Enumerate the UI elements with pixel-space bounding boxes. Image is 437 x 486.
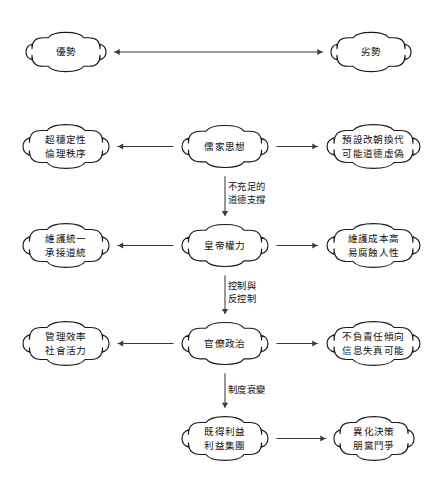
arrowhead-left: [118, 143, 123, 149]
arrowhead-left: [114, 49, 119, 55]
arrowhead-down: [222, 211, 228, 216]
alienated-decision-node-shape[interactable]: [334, 417, 414, 461]
emperor-disadvantage-node-shape[interactable]: [327, 224, 420, 268]
confucian-disadvantage-node-shape[interactable]: [327, 125, 420, 169]
edge-label-line: 不充足的: [228, 180, 266, 193]
confucian-advantage-node-shape[interactable]: [23, 125, 109, 169]
edge-bureaucracy-to-advantage: [117, 340, 173, 346]
arrowhead-right: [312, 242, 317, 248]
arrowhead-down: [222, 403, 228, 408]
edge-vested-to-alienated: [276, 435, 326, 441]
edge-confucian-to-disadvantage: [276, 143, 317, 149]
arrowhead-right: [312, 340, 317, 346]
edge-label-line: 控制與: [228, 279, 256, 292]
arrowhead-down: [222, 309, 228, 314]
arrowhead-left: [118, 242, 123, 248]
edge-emperor-to-disadvantage: [276, 242, 317, 248]
bureaucratic-politics-node-shape[interactable]: [182, 323, 268, 365]
nodes-layer: [23, 32, 420, 460]
edge-advantage-disadvantage: [114, 49, 323, 55]
disadvantage-header-node-shape[interactable]: [331, 32, 411, 71]
vested-interests-node-shape[interactable]: [182, 417, 268, 461]
edge-emperor-to-bureaucracy-label: 控制與反控制: [228, 279, 256, 305]
edge-label-line: 反控制: [228, 292, 256, 305]
edge-bureaucracy-to-disadvantage: [276, 340, 317, 346]
diagram-root: 不充足的道德支撐控制與反控制制度衰變優勢劣勢超穩定性倫理秩序儒家思想預設改朝換代…: [0, 0, 437, 486]
confucian-thought-node-shape[interactable]: [182, 126, 268, 168]
emperor-advantage-node-shape[interactable]: [23, 224, 109, 268]
edge-confucian-to-emperor-label: 不充足的道德支撐: [228, 180, 266, 206]
edge-label-line: 制度衰變: [228, 383, 266, 396]
edge-confucian-to-advantage: [117, 143, 173, 149]
arrowhead-left: [118, 340, 123, 346]
arrowhead-right: [317, 49, 322, 55]
edge-bureaucracy-to-vested-interests-label: 制度衰變: [228, 383, 266, 396]
bureaucracy-disadvantage-node-shape[interactable]: [327, 322, 420, 366]
edge-label-line: 道德支撐: [228, 193, 266, 206]
diagram-canvas: [0, 0, 437, 486]
arrowhead-right: [312, 143, 317, 149]
emperor-power-node-shape[interactable]: [182, 225, 268, 267]
advantage-header-node-shape[interactable]: [26, 32, 106, 71]
arrowhead-right: [320, 435, 325, 441]
bureaucracy-advantage-node-shape[interactable]: [23, 322, 109, 366]
edge-emperor-to-advantage: [117, 242, 173, 248]
